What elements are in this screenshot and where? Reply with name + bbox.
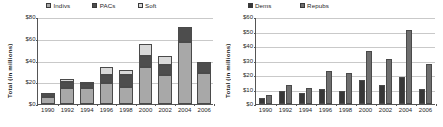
x-tick-mark: [77, 104, 78, 106]
legend-left: IndivsPACsSoft: [46, 2, 156, 9]
bar-repubs[interactable]: [326, 71, 332, 104]
y-axis-tick-label: $20: [243, 72, 253, 78]
bar-dems[interactable]: [379, 85, 385, 104]
bar-segment-indivs[interactable]: [158, 75, 172, 104]
stacked-bar[interactable]: [100, 67, 114, 104]
x-tick-mark: [396, 104, 397, 106]
bar-segment-soft[interactable]: [60, 79, 74, 82]
y-axis-tick-label: $10: [243, 87, 253, 93]
bar-segment-indivs[interactable]: [119, 87, 133, 104]
y-tick-mark: [36, 62, 38, 63]
bar-dems[interactable]: [319, 89, 325, 104]
bar-segment-soft[interactable]: [80, 82, 94, 84]
stacked-bar[interactable]: [60, 79, 74, 104]
y-tick-mark: [254, 18, 256, 19]
x-axis-tick-label: 1990: [41, 107, 54, 113]
legend-label: PACs: [100, 2, 116, 9]
bar-repubs[interactable]: [286, 85, 292, 104]
stacked-bar[interactable]: [80, 82, 94, 104]
bar-repubs[interactable]: [386, 59, 392, 104]
y-axis-tick-label: $0: [29, 101, 36, 107]
x-tick-mark: [356, 104, 357, 106]
x-tick-mark: [58, 104, 59, 106]
bar-segment-indivs[interactable]: [41, 97, 55, 104]
y-axis-tick-label: $40: [25, 58, 35, 64]
bar-repubs[interactable]: [406, 30, 412, 104]
bar-segment-indivs[interactable]: [139, 67, 153, 104]
bar-segment-pacs[interactable]: [41, 93, 55, 98]
gridline: [256, 18, 435, 19]
bar-segment-indivs[interactable]: [197, 73, 211, 104]
charts-container: IndivsPACsSoft Total (in millions) $0$20…: [0, 0, 443, 127]
x-tick-mark: [214, 104, 215, 106]
x-tick-mark: [296, 104, 297, 106]
bar-segment-soft[interactable]: [119, 70, 133, 75]
legend-entry-dems[interactable]: Dems: [248, 2, 272, 9]
stacked-bar[interactable]: [139, 44, 153, 104]
x-axis-tick-label: 1998: [119, 107, 132, 113]
bar-dems[interactable]: [279, 91, 285, 104]
bar-repubs[interactable]: [266, 95, 272, 104]
stacked-bar[interactable]: [119, 70, 133, 104]
y-tick-mark: [36, 40, 38, 41]
x-tick-mark: [194, 104, 195, 106]
legend-entry-repubs[interactable]: Repubs: [300, 2, 329, 9]
bar-segment-indivs[interactable]: [60, 88, 74, 104]
x-axis-tick-label: 1994: [299, 107, 312, 113]
bar-dems[interactable]: [259, 98, 265, 104]
stacked-bar[interactable]: [197, 62, 211, 104]
bar-dems[interactable]: [299, 93, 305, 104]
y-tick-mark: [254, 47, 256, 48]
gridline: [38, 18, 213, 19]
y-axis-tick-label: $50: [243, 29, 253, 35]
y-tick-mark: [254, 33, 256, 34]
bar-segment-soft[interactable]: [100, 67, 114, 75]
bar-repubs[interactable]: [426, 64, 432, 104]
bar-dems[interactable]: [399, 77, 405, 104]
y-tick-mark: [36, 83, 38, 84]
bar-segment-indivs[interactable]: [178, 42, 192, 104]
x-axis-tick-label: 2006: [198, 107, 211, 113]
bar-segment-pacs[interactable]: [60, 82, 74, 88]
y-axis-tick-label: $60: [25, 36, 35, 42]
bar-segment-pacs[interactable]: [197, 62, 211, 73]
bar-dems[interactable]: [419, 89, 425, 104]
bar-segment-pacs[interactable]: [139, 56, 153, 66]
legend-swatch-icon: [46, 3, 51, 8]
bar-repubs[interactable]: [366, 51, 372, 104]
y-tick-mark: [254, 105, 256, 106]
x-tick-mark: [155, 104, 156, 106]
bar-dems[interactable]: [359, 80, 365, 104]
bar-segment-pacs[interactable]: [158, 65, 172, 75]
legend-label: Indivs: [54, 2, 71, 9]
y-axis-tick-label: $20: [25, 79, 35, 85]
legend-swatch-icon: [92, 3, 97, 8]
y-axis-tick-label: $80: [25, 14, 35, 20]
stacked-bar[interactable]: [41, 92, 55, 104]
stacked-bar[interactable]: [178, 27, 192, 104]
x-tick-mark: [97, 104, 98, 106]
bar-segment-pacs[interactable]: [119, 75, 133, 87]
bar-segment-pacs[interactable]: [100, 75, 114, 82]
bar-segment-indivs[interactable]: [80, 88, 94, 104]
x-axis-tick-label: 1996: [319, 107, 332, 113]
bar-segment-indivs[interactable]: [100, 83, 114, 104]
x-axis-tick-label: 2002: [379, 107, 392, 113]
bar-repubs[interactable]: [306, 88, 312, 104]
bar-segment-soft[interactable]: [139, 44, 153, 56]
y-axis-label-left: Total (in millions): [6, 24, 13, 98]
bar-dems[interactable]: [339, 91, 345, 105]
x-axis-tick-label: 1996: [100, 107, 113, 113]
x-axis-tick-label: 1994: [80, 107, 93, 113]
chart-panel-contributions-by-party: DemsRepubs Total (in millions) $0$10$20$…: [222, 0, 443, 127]
y-axis-tick-label: $0: [246, 101, 253, 107]
legend-entry-pacs[interactable]: PACs: [92, 2, 115, 9]
legend-entry-soft[interactable]: Soft: [138, 2, 157, 9]
legend-entry-indivs[interactable]: Indivs: [46, 2, 70, 9]
bar-repubs[interactable]: [346, 73, 352, 104]
bar-segment-soft[interactable]: [158, 56, 172, 65]
bar-segment-pacs[interactable]: [80, 84, 94, 89]
stacked-bar[interactable]: [158, 56, 172, 104]
x-axis-tick-label: 2000: [359, 107, 372, 113]
bar-segment-pacs[interactable]: [178, 27, 192, 42]
